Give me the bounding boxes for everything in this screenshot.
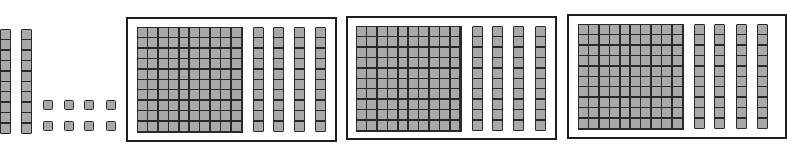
hundred-flat xyxy=(578,24,684,130)
unit-cube xyxy=(64,100,74,110)
ten-rod xyxy=(736,24,747,129)
ten-rod xyxy=(535,26,546,131)
ten-rod xyxy=(757,24,768,129)
ten-rod xyxy=(294,27,305,132)
ten-rod xyxy=(492,26,503,131)
unit-cube xyxy=(106,121,116,131)
unit-cube xyxy=(43,121,53,131)
hundred-flat xyxy=(356,26,462,132)
ten-rod xyxy=(21,29,32,134)
ten-rod xyxy=(315,27,326,132)
unit-cube xyxy=(84,100,94,110)
unit-cube xyxy=(43,100,53,110)
ten-rod xyxy=(0,29,11,134)
unit-cube xyxy=(64,121,74,131)
hundred-flat xyxy=(137,27,243,133)
ten-rod xyxy=(472,26,483,131)
ten-rod xyxy=(253,27,264,132)
ten-rod xyxy=(513,26,524,131)
ten-rod xyxy=(694,24,705,129)
unit-cube xyxy=(106,100,116,110)
ten-rod xyxy=(714,24,725,129)
ten-rod xyxy=(273,27,284,132)
unit-cube xyxy=(84,121,94,131)
